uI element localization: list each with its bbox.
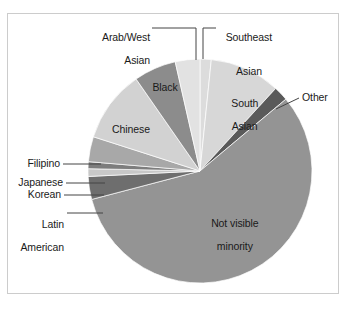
label-south-asian-line2: Asian	[232, 120, 258, 132]
label-korean: Korean	[10, 189, 61, 201]
label-southeast-asian-line2: Asian	[220, 66, 278, 78]
label-south-asian: South Asian	[218, 86, 266, 132]
label-not-visible-minority-line2: minority	[217, 240, 253, 252]
label-chinese: Chinese	[103, 124, 159, 136]
label-southeast-asian-line1: Southeast	[226, 31, 272, 43]
label-southeast-asian: Southeast Asian	[220, 20, 290, 89]
label-latin-american-line1: Latin	[42, 218, 64, 230]
label-japanese: Japanese	[6, 177, 63, 189]
label-arab-west-asian-line2: Asian	[124, 54, 150, 66]
leader-line-arab-west-asian	[152, 28, 196, 60]
leader-line-southeast-asian	[203, 28, 216, 59]
label-filipino: Filipino	[10, 158, 60, 170]
label-south-asian-line1: South	[231, 97, 258, 109]
label-latin-american-line2: American	[20, 241, 64, 253]
label-not-visible-minority-line1: Not visible	[211, 217, 258, 229]
label-latin-american: Latin American	[4, 207, 64, 253]
label-arab-west-asian: Arab/West Asian	[92, 20, 150, 66]
label-arab-west-asian-line1: Arab/West	[102, 31, 150, 43]
label-not-visible-minority: Not visible minority	[196, 206, 268, 252]
label-black: Black	[140, 82, 190, 94]
label-other: Other	[302, 92, 346, 104]
